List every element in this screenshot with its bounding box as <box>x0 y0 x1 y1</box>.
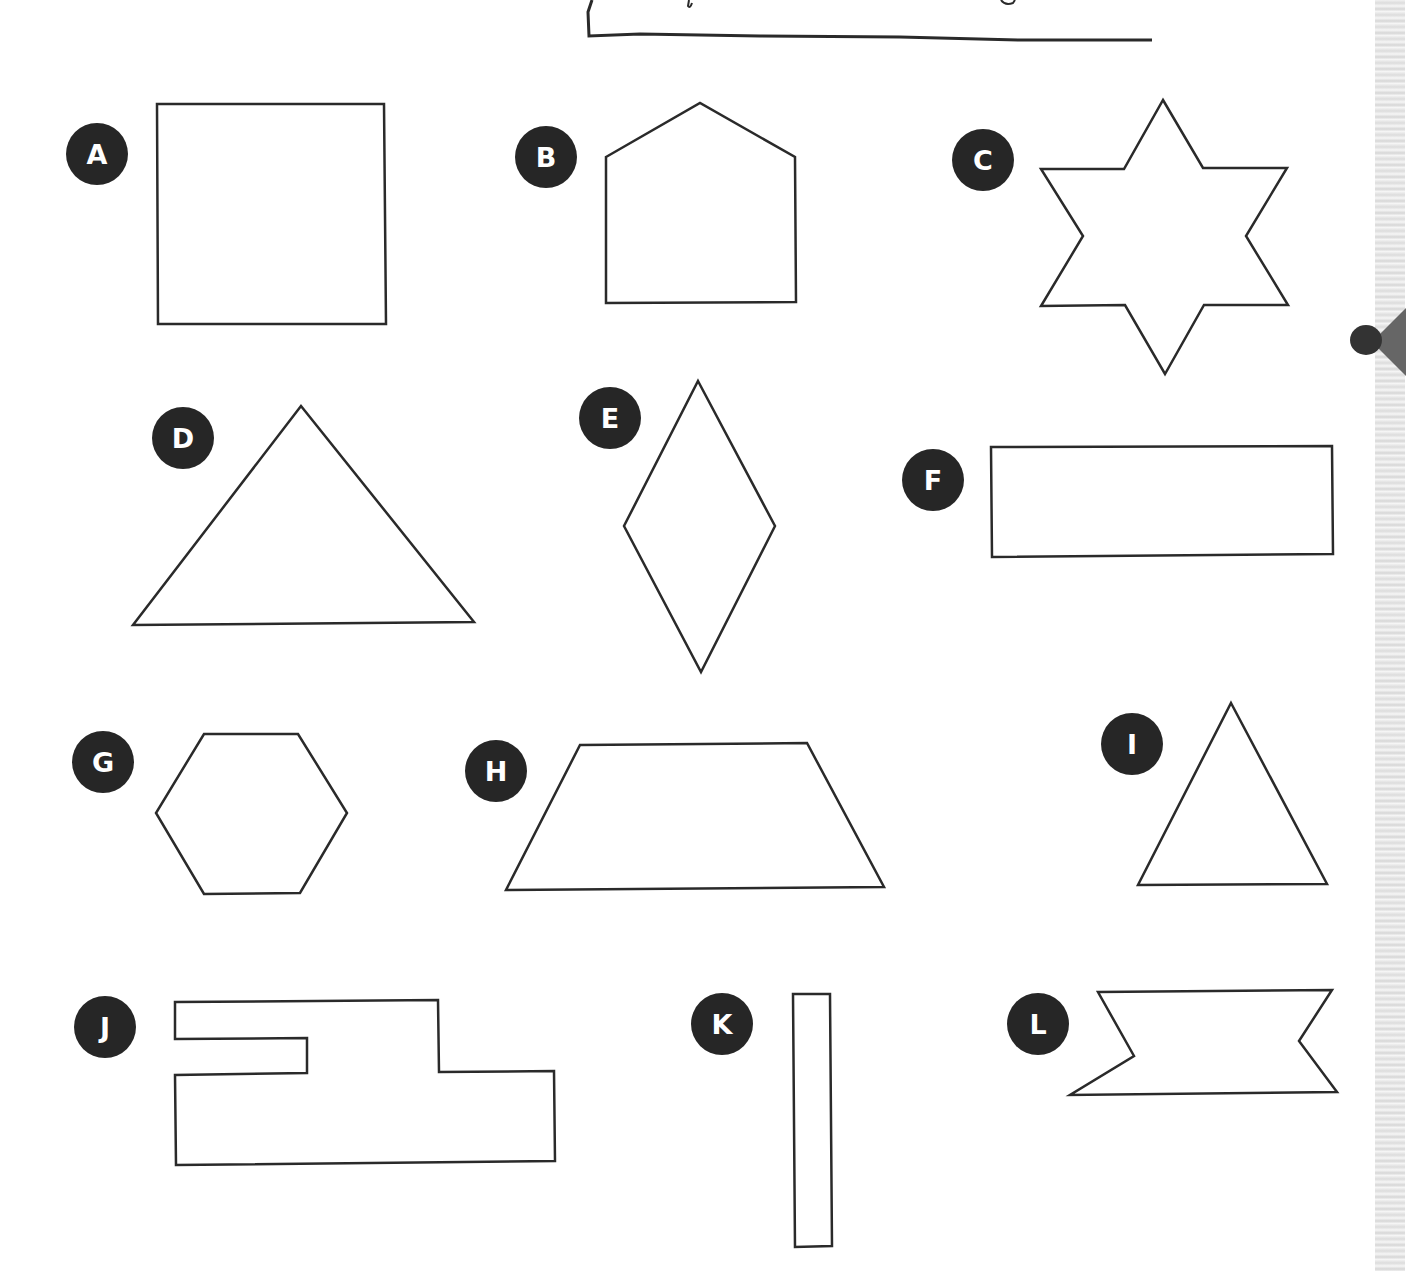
shape-six-point-star <box>1041 100 1288 374</box>
shape-label-badge-c: C <box>952 129 1014 191</box>
shape-label-badge-a: A <box>66 123 128 185</box>
pushpin-icon <box>1350 325 1382 355</box>
shape-trapezoid <box>506 743 884 890</box>
title-frame <box>588 0 1152 40</box>
shape-label-badge-k: K <box>691 993 753 1055</box>
shape-label-badge-j: J <box>74 996 136 1058</box>
torn-page-edge <box>1375 0 1405 1271</box>
shape-hexagon <box>156 734 347 894</box>
title-text-fragment <box>688 0 692 7</box>
shape-rhombus <box>624 381 775 672</box>
shape-label-badge-b: B <box>515 126 577 188</box>
shape-square <box>157 104 386 324</box>
shape-label-badge-f: F <box>902 449 964 511</box>
shape-label-badge-d: D <box>152 407 214 469</box>
shape-long-rectangle <box>991 446 1333 557</box>
shape-label-badge-l: L <box>1007 993 1069 1055</box>
shape-pentagon-house <box>606 103 796 303</box>
shape-label-badge-i: I <box>1101 713 1163 775</box>
shape-label-badge-h: H <box>465 740 527 802</box>
title-text-fragment <box>1001 0 1015 4</box>
shape-thin-vertical-rectangle <box>793 994 832 1247</box>
shape-ribbon-banner <box>1070 990 1337 1095</box>
shape-label-badge-e: E <box>579 387 641 449</box>
shape-notched-irregular-polygon <box>175 1000 555 1165</box>
shape-small-triangle <box>1138 703 1327 885</box>
shape-label-badge-g: G <box>72 731 134 793</box>
